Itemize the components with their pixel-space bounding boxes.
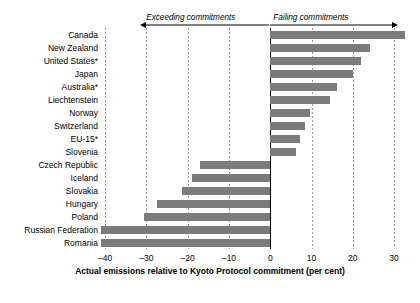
bar-norway bbox=[270, 109, 310, 117]
bar-slovenia bbox=[270, 148, 296, 156]
x-axis-title: Actual emissions relative to Kyoto Proto… bbox=[0, 266, 420, 276]
category-label: Slovenia bbox=[0, 147, 98, 157]
category-label: Japan bbox=[0, 69, 98, 79]
category-label: EU-15* bbox=[0, 134, 98, 144]
category-label: Norway bbox=[0, 108, 98, 118]
x-tick-label: 10 bbox=[307, 253, 316, 263]
category-label: New Zealand bbox=[0, 43, 98, 53]
category-label: Switzerland bbox=[0, 121, 98, 131]
bar-poland bbox=[144, 213, 270, 221]
category-axis-labels: CanadaNew ZealandUnited States*JapanAust… bbox=[0, 28, 98, 249]
bar-eu-15 bbox=[270, 135, 300, 143]
category-label: Romania bbox=[0, 238, 98, 248]
bar-romania bbox=[101, 239, 270, 247]
category-label: Poland bbox=[0, 212, 98, 222]
bar-new-zealand bbox=[270, 44, 370, 52]
x-tick-label: 30 bbox=[389, 253, 398, 263]
category-label: Russian Federation bbox=[0, 225, 98, 235]
category-label: Canada bbox=[0, 30, 98, 40]
bar-canada bbox=[270, 31, 405, 39]
plot-area bbox=[101, 28, 409, 249]
category-label: Hungary bbox=[0, 199, 98, 209]
category-label: Australia* bbox=[0, 82, 98, 92]
bar-hungary bbox=[157, 200, 271, 208]
bar-slovakia bbox=[182, 187, 271, 195]
x-tick-label: –40 bbox=[98, 253, 112, 263]
bar-japan bbox=[270, 70, 353, 78]
category-label: Liechtenstein bbox=[0, 95, 98, 105]
bar-australia bbox=[270, 83, 337, 91]
bar-united-states bbox=[270, 57, 361, 65]
category-label: Iceland bbox=[0, 173, 98, 183]
bar-switzerland bbox=[270, 122, 305, 130]
bar-iceland bbox=[192, 174, 270, 182]
x-tick-label: 20 bbox=[348, 253, 357, 263]
category-label: Czech Republic bbox=[0, 160, 98, 170]
x-axis-ticks: –40–30–20–100102030 bbox=[0, 249, 420, 265]
category-label: Slovakia bbox=[0, 186, 98, 196]
bar-russian-federation bbox=[101, 226, 270, 234]
x-tick-label: –10 bbox=[222, 253, 236, 263]
x-tick-label: 0 bbox=[268, 253, 273, 263]
category-label: United States* bbox=[0, 56, 98, 66]
bar-czech-republic bbox=[200, 161, 270, 169]
x-tick-label: –20 bbox=[181, 253, 195, 263]
bar-liechtenstein bbox=[270, 96, 330, 104]
kyoto-emissions-bar-chart: Exceeding commitments Failing commitment… bbox=[0, 0, 420, 303]
x-tick-label: –30 bbox=[139, 253, 153, 263]
